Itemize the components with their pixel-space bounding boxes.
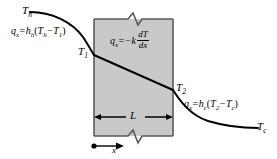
heat-transfer-diagram: Th T1 T2 Tc qx=hh(Th−T1) qx=−kdTdx qx=hc…: [0, 0, 277, 159]
gradient-numerator: dT: [137, 30, 149, 39]
hot-eq-close-paren: ): [62, 25, 65, 36]
cold-convection-equation: qx=hc(T2−Tc): [184, 99, 238, 112]
gradient-denominator: dx: [137, 41, 149, 50]
x-axis-label: x: [112, 146, 116, 155]
hot-eq-equals: =: [19, 25, 26, 36]
hot-fluid-temperature-label: Th: [22, 5, 32, 19]
cold-fluid-temperature-label: Tc: [257, 121, 266, 135]
cold-surface-temperature-subscript: 2: [182, 87, 186, 96]
hot-surface-temperature-label: T1: [78, 46, 88, 60]
cond-eq-equals: =: [118, 35, 125, 46]
wall-thickness-label: L: [130, 110, 136, 121]
hot-fluid-temperature-subscript: h: [28, 10, 32, 19]
cold-eq-close-paren: ): [235, 98, 238, 109]
conduction-equation: qx=−kdTdx: [110, 30, 149, 51]
cold-fluid-temperature-subscript: c: [263, 126, 266, 135]
cold-surface-temperature-label: T2: [176, 82, 186, 96]
hot-surface-temperature-subscript: 1: [84, 51, 88, 60]
temperature-gradient-fraction: dTdx: [137, 30, 149, 51]
cold-eq-minus: −: [219, 98, 226, 109]
cold-eq-equals: =: [192, 98, 199, 109]
cond-eq-conductivity: k: [131, 35, 135, 46]
x-axis-indicator: [91, 143, 124, 150]
diagram-canvas: [0, 0, 277, 159]
x-axis-arrowhead: [116, 143, 124, 150]
hot-convection-equation: qx=hh(Th−T1): [11, 26, 66, 39]
